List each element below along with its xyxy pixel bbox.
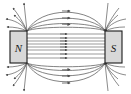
- straight-field-lines: [27, 34, 105, 58]
- south-pole-label: S: [111, 42, 117, 54]
- fan-field-lines-north-top: [6, 3, 27, 31]
- field-lines-canvas: N S: [0, 0, 131, 94]
- straight-field-line-arrows: [60, 34, 67, 58]
- fan-field-lines-south-top: [105, 3, 126, 31]
- south-pole-magnet: S: [105, 31, 122, 63]
- fan-field-lines-south-bottom: [105, 63, 126, 91]
- field-arc-top-4: [27, 27, 105, 31]
- north-pole-magnet: N: [10, 31, 27, 63]
- north-pole-label: N: [14, 42, 23, 54]
- fan-field-lines-north-bottom: [6, 63, 27, 91]
- field-arc-bottom-4: [27, 63, 105, 67]
- magnetic-field-diagram: N S: [0, 0, 131, 94]
